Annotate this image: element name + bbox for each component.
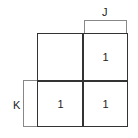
karnaugh-map-grid: 1 1 1 [37, 33, 128, 127]
cell-r0-c0 [38, 34, 83, 80]
k-bracket [23, 80, 37, 127]
j-bracket [84, 20, 127, 33]
cell-r1-c1: 1 [83, 81, 128, 127]
cell-r0-c1: 1 [83, 34, 128, 80]
cell-r1-c0: 1 [38, 81, 83, 127]
j-label: J [102, 6, 108, 18]
k-label: K [13, 99, 20, 111]
